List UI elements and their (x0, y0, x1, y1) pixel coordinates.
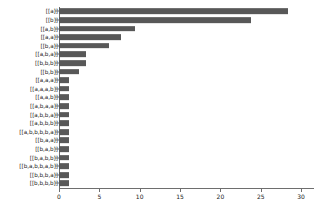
x-axis-ticks: 051015202530 (0, 188, 318, 208)
bar (59, 8, 288, 14)
x-axis-tick-label: 15 (176, 193, 184, 200)
bar-row: [[a,a,a,b]] (0, 84, 318, 93)
bar-category-label: [[b,b,b,a]] (30, 172, 58, 178)
bar (59, 95, 69, 101)
x-axis-tick (99, 188, 100, 192)
bar (59, 112, 69, 118)
bar (59, 77, 69, 83)
bar-row: [[a,b,b,a]] (0, 110, 318, 119)
x-axis-tick-label: 0 (57, 193, 61, 200)
x-axis-tick (301, 188, 302, 192)
bar-row: [[a,b,a,a]] (0, 102, 318, 111)
bar-row: [[b,a,b,b,a,b]] (0, 162, 318, 171)
bar (59, 129, 69, 135)
bar-category-label: [[a,a,a,b]] (30, 86, 58, 92)
bar-category-label: [[a,b,b,a]] (30, 112, 58, 118)
bar-rows: [[a]][[b]][[a,b]][[a,a]][[b,a]][[a,b,a]]… (0, 7, 318, 188)
bar-row: [[b,a]] (0, 41, 318, 50)
bar (59, 103, 69, 109)
x-axis-tick-label: 10 (136, 193, 144, 200)
x-axis-tick (261, 188, 262, 192)
bar-row: [[a,a]] (0, 33, 318, 42)
bar-row: [[b,a,b]] (0, 145, 318, 154)
bar-row: [[a,a,a]] (0, 76, 318, 85)
x-axis-tick-label: 20 (217, 193, 225, 200)
bar-row: [[b]] (0, 16, 318, 25)
bar (59, 17, 251, 23)
bar-row: [[b,b,b]] (0, 59, 318, 68)
bar (59, 43, 109, 49)
bar-row: [[a,b,a]] (0, 50, 318, 59)
bar-category-label: [[a,b,b,b]] (30, 120, 58, 126)
bar (59, 138, 69, 144)
bar (59, 146, 69, 152)
bar (59, 181, 69, 187)
bar (59, 34, 121, 40)
bar-category-label: [[a,b,a,a]] (30, 103, 58, 109)
bar (59, 120, 69, 126)
bar-category-label: [[b,a,b,b]] (30, 155, 58, 161)
bar-chart: [[a]][[b]][[a,b]][[a,a]][[b,a]][[a,b,a]]… (0, 0, 318, 212)
bar (59, 69, 79, 75)
bar-row: [[b,b,b,a]] (0, 171, 318, 180)
bar (59, 155, 69, 161)
bar-category-label: [[b,a,b,b,a,b]] (19, 163, 58, 169)
bar (59, 86, 69, 92)
bar (59, 60, 86, 66)
bar-row: [[a,b,b,b,b,a]] (0, 128, 318, 137)
x-axis-tick (140, 188, 141, 192)
bar-row: [[a]] (0, 7, 318, 16)
x-axis-tick-label: 30 (297, 193, 305, 200)
bar-row: [[b,b]] (0, 67, 318, 76)
bar-row: [[a,b]] (0, 24, 318, 33)
bar-row: [[b,a,b,b]] (0, 153, 318, 162)
bar-category-label: [[b,b,b,b]] (30, 180, 58, 186)
bar (59, 163, 69, 169)
bar-row: [[b,b,b,b]] (0, 179, 318, 188)
bar-category-label: [[a,b,b,b,b,a]] (19, 129, 58, 135)
x-axis-tick-label: 5 (97, 193, 101, 200)
bar (59, 26, 135, 32)
bar (59, 52, 86, 58)
bar (59, 172, 69, 178)
bar-row: [[b,a,a]] (0, 136, 318, 145)
x-axis-tick (180, 188, 181, 192)
x-axis-tick-label: 25 (257, 193, 265, 200)
bar-row: [[a,b,b,b]] (0, 119, 318, 128)
bar-row: [[a,a,b]] (0, 93, 318, 102)
x-axis-tick (59, 188, 60, 192)
x-axis-tick (220, 188, 221, 192)
